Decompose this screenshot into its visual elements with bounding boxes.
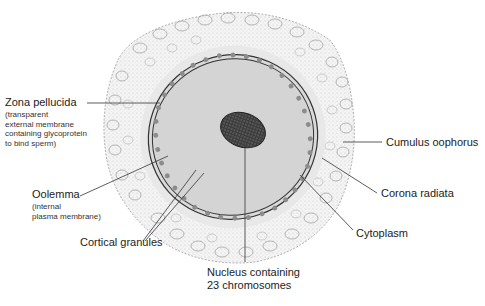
zona-desc-line: to bind sperm) xyxy=(5,139,87,149)
label-zona-pellucida-desc: (transparent external membrane containin… xyxy=(5,110,87,148)
zona-desc-line: containing glycoprotein xyxy=(5,129,87,139)
ovum-diagram: Zona pellucida (transparent external mem… xyxy=(0,0,485,306)
ovum-illustration xyxy=(0,0,485,306)
zona-desc-line: external membrane xyxy=(5,120,87,130)
nucleus-line: Nucleus containing xyxy=(207,266,300,279)
label-cumulus-oophorus: Cumulus oophorus xyxy=(386,136,478,149)
label-nucleus: Nucleus containing 23 chromosomes xyxy=(207,266,300,292)
label-oolemma-desc: (internal plasma membrane) xyxy=(32,202,101,221)
oolemma-desc-line: (internal xyxy=(32,202,101,212)
nucleus-line: 23 chromosomes xyxy=(207,279,300,292)
label-cytoplasm: Cytoplasm xyxy=(356,227,408,240)
label-oolemma: Oolemma xyxy=(32,188,80,201)
zona-desc-line: (transparent xyxy=(5,110,87,120)
label-corona-radiata: Corona radiata xyxy=(381,187,454,200)
label-zona-pellucida: Zona pellucida xyxy=(5,96,77,109)
oolemma-desc-line: plasma membrane) xyxy=(32,212,101,222)
label-cortical-granules: Cortical granules xyxy=(80,236,163,249)
